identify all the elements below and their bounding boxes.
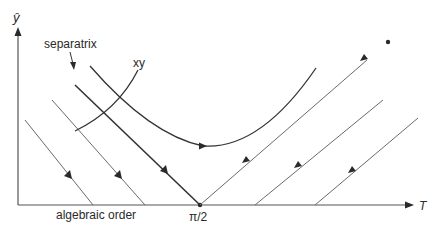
x-tick-label: π/2 xyxy=(189,210,208,224)
y-axis-label: ŷ xyxy=(12,10,21,25)
arrow-icon xyxy=(160,165,168,174)
pointer-arrow-icon xyxy=(70,62,76,70)
separatrix-line xyxy=(75,85,200,205)
arrow-icon xyxy=(199,143,207,150)
xy-curve-label: xy xyxy=(133,56,145,70)
x-axis-arrow-icon xyxy=(405,202,414,209)
arrow-icon xyxy=(64,170,72,179)
x-origin-label: algebraic order xyxy=(56,208,136,222)
trajectory-right-1 xyxy=(200,60,367,205)
trajectory-left-2 xyxy=(52,100,145,205)
x-axis-label: T xyxy=(419,199,428,213)
phase-diagram: ŷ T separatrix xy algebraic order π/2 xyxy=(0,0,440,228)
separatrix-label: separatrix xyxy=(44,37,97,51)
xy-curve xyxy=(75,70,138,131)
arrow-icon xyxy=(242,156,250,163)
y-axis-arrow-icon xyxy=(15,27,22,36)
trajectory-right-2 xyxy=(255,100,383,205)
trajectory-left-1 xyxy=(25,120,93,205)
trajectory-right-3 xyxy=(315,118,418,205)
fixed-point-dot xyxy=(386,40,390,44)
